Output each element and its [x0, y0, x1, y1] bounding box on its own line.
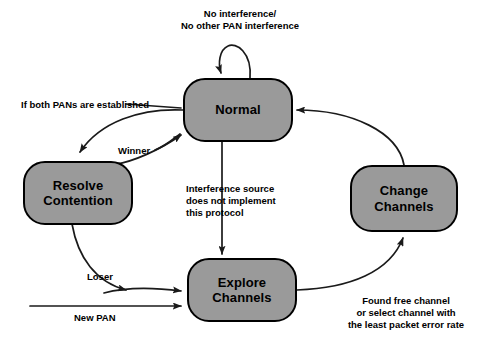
state-node-change-channels[interactable]: Change Channels: [350, 165, 458, 232]
edge-change-to-normal: [297, 110, 404, 165]
edge-label-normal-self-loop: No interference/ No other PAN interferen…: [150, 8, 330, 32]
edge-explore-to-change: [297, 238, 403, 290]
state-label-change-channels: Change Channels: [374, 183, 433, 214]
edge-label-new-pan: New PAN: [74, 312, 154, 324]
state-node-normal[interactable]: Normal: [183, 78, 293, 142]
state-label-explore-channels: Explore Channels: [212, 275, 271, 306]
state-label-resolve-contention: Resolve Contention: [43, 178, 113, 209]
state-diagram: Normal Resolve Contention Change Channel…: [0, 0, 484, 348]
state-node-explore-channels[interactable]: Explore Channels: [187, 258, 297, 322]
state-label-normal: Normal: [215, 102, 260, 117]
edge-label-interference-source: Interference source does not implement t…: [186, 183, 316, 219]
edge-label-if-both-pans-established: If both PANs are established: [21, 99, 181, 111]
edge-label-loser: Loser: [87, 271, 137, 283]
edge-normal-self-loop: [219, 45, 250, 78]
edge-loser-leadin: [104, 288, 181, 293]
state-node-resolve-contention[interactable]: Resolve Contention: [23, 161, 133, 225]
edge-label-winner: Winner: [118, 145, 178, 157]
edge-label-found-free-channel: Found free channel or select channel wit…: [330, 295, 482, 331]
